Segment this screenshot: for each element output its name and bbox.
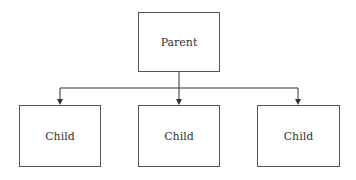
child-node-3: Child <box>257 105 340 167</box>
parent-label: Parent <box>161 36 198 49</box>
child-label: Child <box>284 130 314 143</box>
child-label: Child <box>164 130 194 143</box>
child-node-2: Child <box>138 105 220 167</box>
child-node-1: Child <box>19 105 101 167</box>
child-label: Child <box>45 130 75 143</box>
parent-node: Parent <box>138 12 220 72</box>
